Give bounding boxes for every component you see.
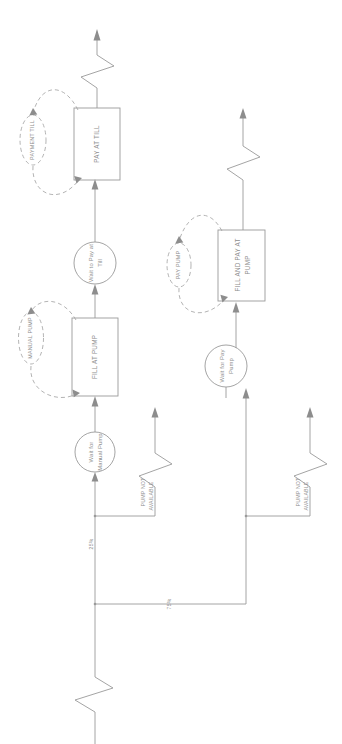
node-wait-for-pay-pump[interactable]: Wait for Pay Pump — [205, 345, 247, 387]
fill-and-pay-at-pump-box[interactable] — [218, 230, 265, 301]
fill-and-pay-at-pump-label-line1: FILL AND PAY AT — [234, 238, 241, 291]
fill-and-pay-exit — [227, 108, 260, 230]
payment-till-link-bottom — [33, 166, 78, 195]
wait-to-pay-at-till-label-line1: Wait to Pay at — [88, 244, 94, 282]
node-fill-and-pay-at-pump[interactable]: FILL AND PAY AT PUMP — [218, 230, 265, 301]
resource-manual-pump[interactable]: MANUAL PUMP — [19, 301, 81, 397]
fill-at-pump-label: FILL AT PUMP — [91, 335, 98, 379]
manual-pump-label: MANUAL PUMP — [27, 317, 33, 359]
pay-pump-link-bottom — [179, 288, 224, 313]
wait-for-manual-pump-label-line1: Wait for — [88, 442, 94, 463]
payment-till-link-top — [34, 90, 78, 110]
arrow-pump-not-available-exit-1 — [152, 407, 159, 418]
node-pay-at-till[interactable]: PAY AT TILL — [74, 108, 120, 180]
wait-for-manual-pump-label-line2: Manual Pump — [97, 433, 103, 471]
pump-not-available-2-line2: AVAILABLE — [303, 481, 309, 510]
arrow-pump-not-available-exit-2 — [307, 407, 314, 418]
resource-payment-till[interactable]: PAYMENT TILL — [20, 90, 82, 195]
pump-not-available-exit-1: PUMP NOT AVAILABLE — [139, 407, 172, 516]
edge-wait-manual-to-fill-at-pump — [92, 396, 99, 432]
arrow-into-pay-at-till — [92, 179, 99, 190]
pay-pump-label: PAY PUMP — [175, 251, 181, 280]
fill-and-pay-at-pump-label-line2: PUMP — [244, 255, 251, 274]
pay-pump-link-top — [180, 215, 222, 238]
diagram-canvas: 25% 75% PUMP NOT AVAILABLE Wait for Manu… — [0, 0, 342, 744]
arrow-pay-at-till-exit — [94, 29, 101, 41]
arrow-into-payment-till — [29, 108, 37, 116]
manual-pump-link-bottom — [31, 366, 76, 398]
arrow-into-fill-and-pay-at-pump — [233, 302, 240, 313]
edge-wait-pay-till-to-pay-at-till — [92, 179, 99, 242]
process-flow-diagram: 25% 75% PUMP NOT AVAILABLE Wait for Manu… — [0, 0, 342, 744]
edge-label-25-percent: 25% — [88, 538, 94, 549]
node-wait-for-manual-pump[interactable]: Wait for Manual Pump — [75, 432, 115, 472]
arrow-into-wait-for-pay-pump — [243, 388, 250, 399]
edge-wait-pay-pump-to-fill-and-pay — [233, 302, 240, 348]
edge-label-75-percent: 75% — [166, 598, 172, 609]
wait-for-pay-pump-label-line1: Wait for Pay — [219, 349, 225, 382]
arrow-into-wait-manual-pump — [92, 472, 99, 482]
pump-not-available-2-line1: PUMP NOT — [295, 477, 301, 507]
pay-at-till-label: PAY AT TILL — [93, 125, 100, 163]
wait-for-pay-pump-circle[interactable] — [205, 345, 247, 387]
arrow-into-pay-pump — [175, 236, 183, 244]
node-wait-to-pay-at-till[interactable]: Wait to Pay at Till — [74, 242, 116, 284]
pump-not-available-1-line1: PUMP NOT — [140, 477, 146, 507]
wait-to-pay-at-till-circle[interactable] — [74, 242, 116, 284]
arrow-into-fill-at-pump — [92, 396, 99, 407]
arrow-into-manual-pump — [27, 307, 35, 315]
arrow-fill-and-pay-exit — [240, 108, 247, 119]
branch-manual-percent-label: 25% — [88, 538, 94, 549]
branch-pay-pump-percent-label: 75% — [166, 598, 172, 609]
wait-for-pay-pump-label-line2: Pump — [228, 357, 234, 373]
wait-to-pay-at-till-label-line2: Till — [97, 259, 103, 267]
payment-till-label: PAYMENT TILL — [29, 120, 35, 160]
arrow-into-wait-pay-till — [92, 284, 99, 295]
pump-not-available-exit-2: PUMP NOT AVAILABLE — [294, 407, 327, 516]
manual-pump-link-top — [32, 301, 76, 320]
pay-at-till-exit — [81, 29, 114, 108]
entry-trunk — [75, 604, 113, 744]
edge-fill-at-pump-to-wait-pay-till — [92, 284, 99, 318]
node-fill-at-pump[interactable]: FILL AT PUMP — [72, 318, 118, 396]
wait-for-manual-pump-circle[interactable] — [75, 432, 115, 472]
pump-not-available-1-line2: AVAILABLE — [148, 481, 154, 510]
